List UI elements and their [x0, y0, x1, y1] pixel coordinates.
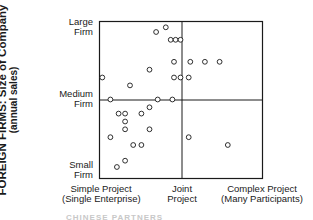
data-point — [123, 158, 128, 163]
data-point — [155, 97, 160, 102]
quadrant-scatter-plot — [0, 0, 313, 220]
data-point — [147, 67, 152, 72]
data-point — [123, 111, 128, 116]
data-point — [178, 37, 183, 42]
data-point — [172, 75, 177, 80]
data-point — [203, 59, 208, 64]
data-point — [172, 59, 177, 64]
data-point — [188, 59, 193, 64]
data-point — [178, 75, 183, 80]
cut-off-footer-text: CHINESE PARTNERS — [66, 213, 163, 220]
data-point — [147, 105, 152, 110]
data-point — [139, 143, 144, 148]
data-point — [154, 30, 159, 35]
data-point — [173, 37, 178, 42]
data-point — [163, 25, 168, 30]
data-point — [115, 165, 120, 170]
data-point — [217, 59, 222, 64]
data-point — [123, 119, 128, 124]
data-point — [147, 127, 152, 132]
data-point — [128, 83, 133, 88]
data-point — [186, 75, 191, 80]
data-point — [123, 127, 128, 132]
data-point — [186, 135, 191, 140]
data-point — [225, 143, 230, 148]
data-point — [170, 97, 175, 102]
data-point — [131, 143, 136, 148]
data-point — [139, 111, 144, 116]
data-point — [108, 135, 113, 140]
data-points — [100, 25, 230, 170]
data-point — [168, 37, 173, 42]
data-point — [108, 97, 113, 102]
data-point — [116, 111, 121, 116]
data-point — [100, 75, 105, 80]
